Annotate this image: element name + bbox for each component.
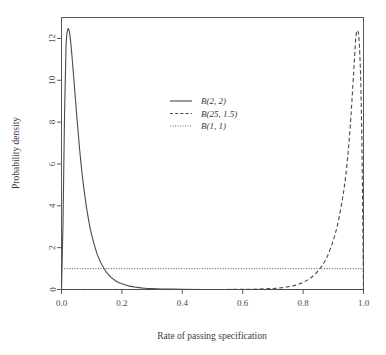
- y-tick-label: 8: [48, 119, 58, 124]
- beta-density-chart: 024681012 0.00.20.40.60.81.0 B(2, 2)B(25…: [0, 0, 386, 355]
- legend-label: B(25, 1.5): [201, 109, 237, 119]
- x-tick-label: 0.4: [177, 298, 189, 308]
- x-tick-label: 0.2: [116, 298, 127, 308]
- x-tick-label: 0.6: [237, 298, 249, 308]
- y-tick-label: 12: [48, 34, 58, 43]
- legend-label: B(2, 2): [201, 96, 226, 106]
- y-tick-label: 2: [48, 245, 58, 250]
- y-axis-title: Probability density: [11, 117, 21, 189]
- y-tick-label: 0: [48, 287, 58, 292]
- x-tick-label: 0.0: [56, 298, 68, 308]
- y-tick-label: 6: [48, 161, 58, 166]
- x-axis-title: Rate of passing specification: [157, 331, 267, 341]
- legend-label: B(1, 1): [201, 121, 226, 131]
- x-tick-label: 0.8: [297, 298, 309, 308]
- x-tick-label: 1.0: [358, 298, 370, 308]
- y-tick-label: 4: [48, 203, 58, 208]
- y-tick-label: 10: [48, 75, 58, 85]
- chart-canvas: 024681012 0.00.20.40.60.81.0 B(2, 2)B(25…: [0, 0, 386, 355]
